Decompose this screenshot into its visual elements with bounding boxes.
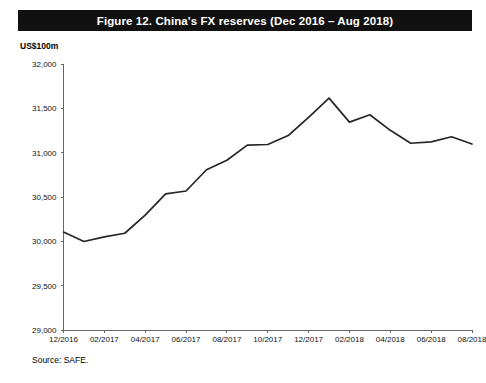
x-tick-label: 10/2017 [253, 335, 282, 344]
y-tick-label: 32,000 [32, 60, 57, 69]
series-line-fx-reserves [64, 98, 473, 241]
source-note: Source: SAFE. [32, 355, 88, 365]
x-tick-label: 02/2017 [90, 335, 119, 344]
y-tick-label: 30,500 [32, 193, 57, 202]
x-axis-ticks: 12/201602/201704/201706/201708/201710/20… [49, 330, 486, 344]
line-chart: 29,00029,50030,00030,50031,00031,50032,0… [0, 0, 486, 383]
y-tick-label: 29,500 [32, 282, 57, 291]
y-tick-label: 31,500 [32, 104, 57, 113]
y-tick-label: 30,000 [32, 237, 57, 246]
y-tick-label: 29,000 [32, 326, 57, 335]
x-tick-label: 12/2017 [294, 335, 323, 344]
x-tick-label: 12/2016 [49, 335, 78, 344]
y-axis-ticks: 29,00029,50030,00030,50031,00031,50032,0… [32, 60, 63, 335]
x-tick-label: 06/2018 [417, 335, 446, 344]
figure-container: Figure 12. China's FX reserves (Dec 2016… [0, 0, 486, 383]
x-tick-label: 04/2017 [131, 335, 160, 344]
x-tick-label: 08/2018 [458, 335, 486, 344]
x-tick-label: 04/2018 [376, 335, 405, 344]
x-tick-label: 02/2018 [335, 335, 364, 344]
x-tick-label: 08/2017 [212, 335, 241, 344]
x-tick-label: 06/2017 [172, 335, 201, 344]
y-tick-label: 31,000 [32, 149, 57, 158]
